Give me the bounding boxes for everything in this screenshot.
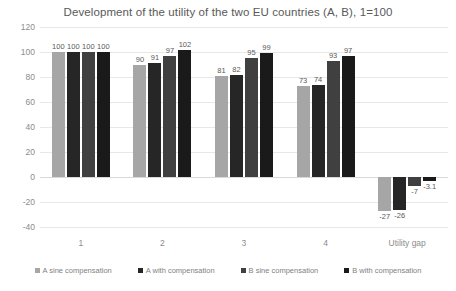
bar[interactable] <box>163 56 176 177</box>
x-axis-label: 2 <box>122 238 204 248</box>
gridline <box>40 227 448 228</box>
bar-value-label: 100 <box>67 42 80 51</box>
bar-slot: -3.1 <box>423 27 436 227</box>
bar[interactable] <box>393 177 406 210</box>
legend-item[interactable]: B sine compensation <box>241 266 319 275</box>
bar-value-label: -26 <box>394 211 405 220</box>
bar-slot: 97 <box>342 27 355 227</box>
bar[interactable] <box>97 52 110 177</box>
legend-swatch <box>138 268 143 273</box>
y-axis-tick: -20 <box>1 197 35 207</box>
legend-label: A with compensation <box>146 266 215 275</box>
legend-item[interactable]: A sine compensation <box>35 266 112 275</box>
y-axis-tick: 40 <box>1 122 35 132</box>
bar-value-label: 81 <box>217 66 225 75</box>
bar-slot: 99 <box>260 27 273 227</box>
bar-value-label: 99 <box>262 43 270 52</box>
bar-slot: 97 <box>163 27 176 227</box>
bar-chart: Development of the utility of the two EU… <box>0 0 456 291</box>
y-axis-tick: 0 <box>1 172 35 182</box>
x-axis-label: 1 <box>40 238 122 248</box>
bar-value-label: 95 <box>247 48 255 57</box>
bar-value-label: 102 <box>179 40 192 49</box>
y-axis-tick: 60 <box>1 97 35 107</box>
bar-group: 81829599 <box>203 27 285 227</box>
legend-item[interactable]: A with compensation <box>138 266 215 275</box>
bar-value-label: 82 <box>232 65 240 74</box>
bar[interactable] <box>378 177 391 211</box>
bar[interactable] <box>260 53 273 177</box>
bar-group: 100100100100 <box>40 27 122 227</box>
bar[interactable] <box>67 52 80 177</box>
bar[interactable] <box>408 177 421 186</box>
bar-slot: 100 <box>82 27 95 227</box>
bar[interactable] <box>230 75 243 178</box>
bar[interactable] <box>148 63 161 177</box>
legend-label: A sine compensation <box>43 266 112 275</box>
bar-slot: 81 <box>215 27 228 227</box>
bar-value-label: 97 <box>166 46 174 55</box>
bar-value-label: 100 <box>97 42 110 51</box>
bar-group-bars: 73749397 <box>285 27 367 227</box>
bar-value-label: -3.1 <box>423 182 436 191</box>
bar-slot: 95 <box>245 27 258 227</box>
y-axis-tick: 120 <box>1 22 35 32</box>
bar-slot: 91 <box>148 27 161 227</box>
bar-slot: -27 <box>378 27 391 227</box>
bar-slot: 90 <box>133 27 146 227</box>
legend-label: B sine compensation <box>249 266 319 275</box>
bar-value-label: 91 <box>151 53 159 62</box>
bar[interactable] <box>297 86 310 177</box>
bar-value-label: 73 <box>299 76 307 85</box>
bar[interactable] <box>312 85 325 178</box>
bar[interactable] <box>342 56 355 177</box>
bar-value-label: 93 <box>329 51 337 60</box>
y-axis-tick: 80 <box>1 72 35 82</box>
bar[interactable] <box>423 177 436 181</box>
bar-slot: -26 <box>393 27 406 227</box>
y-axis-tick: 100 <box>1 47 35 57</box>
bar-value-label: 100 <box>52 42 65 51</box>
y-axis-tick: 20 <box>1 147 35 157</box>
bar-group: 73749397 <box>285 27 367 227</box>
bar-groups: 1001001001009091971028182959973749397-27… <box>40 27 448 227</box>
bar-value-label: 97 <box>344 46 352 55</box>
bar[interactable] <box>215 76 228 177</box>
bar-group-bars: 81829599 <box>203 27 285 227</box>
bar-value-label: -27 <box>379 212 390 221</box>
bar[interactable] <box>327 61 340 177</box>
bar[interactable] <box>52 52 65 177</box>
chart-title: Development of the utility of the two EU… <box>0 6 456 18</box>
bar-slot: 102 <box>178 27 191 227</box>
bar[interactable] <box>245 58 258 177</box>
legend-item[interactable]: B with compensation <box>344 266 421 275</box>
bar-slot: 73 <box>297 27 310 227</box>
bar-slot: 100 <box>52 27 65 227</box>
bar[interactable] <box>82 52 95 177</box>
legend-label: B with compensation <box>352 266 421 275</box>
bar-slot: -7 <box>408 27 421 227</box>
legend-swatch <box>35 268 40 273</box>
x-axis-labels: 1234Utility gap <box>40 238 448 248</box>
bar-value-label: 74 <box>314 75 322 84</box>
bar[interactable] <box>178 50 191 178</box>
x-axis-label: 4 <box>285 238 367 248</box>
bar-group-bars: -27-26-7-3.1 <box>366 27 448 227</box>
x-axis-label: 3 <box>203 238 285 248</box>
bar-value-label: 100 <box>82 42 95 51</box>
chart-legend: A sine compensationA with compensationB … <box>0 266 456 275</box>
legend-swatch <box>344 268 349 273</box>
bar-slot: 100 <box>67 27 80 227</box>
bar-group-bars: 100100100100 <box>40 27 122 227</box>
bar[interactable] <box>133 65 146 178</box>
legend-swatch <box>241 268 246 273</box>
bar-group: -27-26-7-3.1 <box>366 27 448 227</box>
bar-slot: 100 <box>97 27 110 227</box>
y-axis-tick: -40 <box>1 222 35 232</box>
bar-slot: 82 <box>230 27 243 227</box>
bar-value-label: -7 <box>411 187 418 196</box>
bar-slot: 74 <box>312 27 325 227</box>
bar-value-label: 90 <box>136 55 144 64</box>
bar-slot: 93 <box>327 27 340 227</box>
bar-group-bars: 909197102 <box>122 27 204 227</box>
